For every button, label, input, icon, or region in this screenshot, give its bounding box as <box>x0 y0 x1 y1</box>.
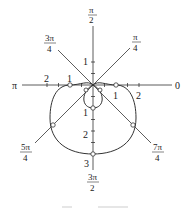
label-pi4-num: π <box>133 32 138 42</box>
label-5pi4-num: 5π <box>21 142 31 152</box>
point-theta-3pi2 <box>91 152 95 156</box>
label-5pi4-den: 4 <box>23 153 28 163</box>
faint-caption-mark <box>62 206 72 208</box>
tick-y-down-2: 2 <box>83 129 88 140</box>
faint-caption-mark <box>98 206 128 208</box>
point-theta-pi4-inner <box>84 88 88 92</box>
label-pi4-den: 4 <box>133 43 138 53</box>
label-0: 0 <box>175 80 180 91</box>
label-3pi4-num: 3π <box>45 33 55 43</box>
label-pi2-num: π <box>89 5 94 15</box>
tick-y-down-1: 1 <box>83 107 88 118</box>
tick-x-left-1: 1 <box>67 73 72 84</box>
point-theta-5pi4 <box>51 123 55 127</box>
polar-graph: 0 π π 2 π 4 3π 4 5π 4 7π 4 3π 2 1 2 1 2 … <box>0 0 194 213</box>
label-7pi4-den: 4 <box>155 153 160 163</box>
tick-y-up-1: 1 <box>83 56 88 67</box>
tick-y-down-3: 3 <box>84 158 89 169</box>
label-pi: π <box>12 80 17 91</box>
point-theta-3pi4-inner <box>98 88 102 92</box>
point-theta-0 <box>114 83 118 87</box>
tick-x-left-2: 2 <box>44 73 49 84</box>
label-3pi2-num: 3π <box>88 172 98 182</box>
label-3pi4-den: 4 <box>47 44 52 54</box>
label-pi2-den: 2 <box>89 15 94 25</box>
label-7pi4-num: 7π <box>153 142 163 152</box>
point-theta-pi2-inner <box>91 106 95 110</box>
point-theta-7pi4 <box>131 123 135 127</box>
tick-x-right-2: 2 <box>136 90 141 101</box>
label-3pi2-den: 2 <box>90 183 95 193</box>
tick-x-right-1: 1 <box>113 90 118 101</box>
